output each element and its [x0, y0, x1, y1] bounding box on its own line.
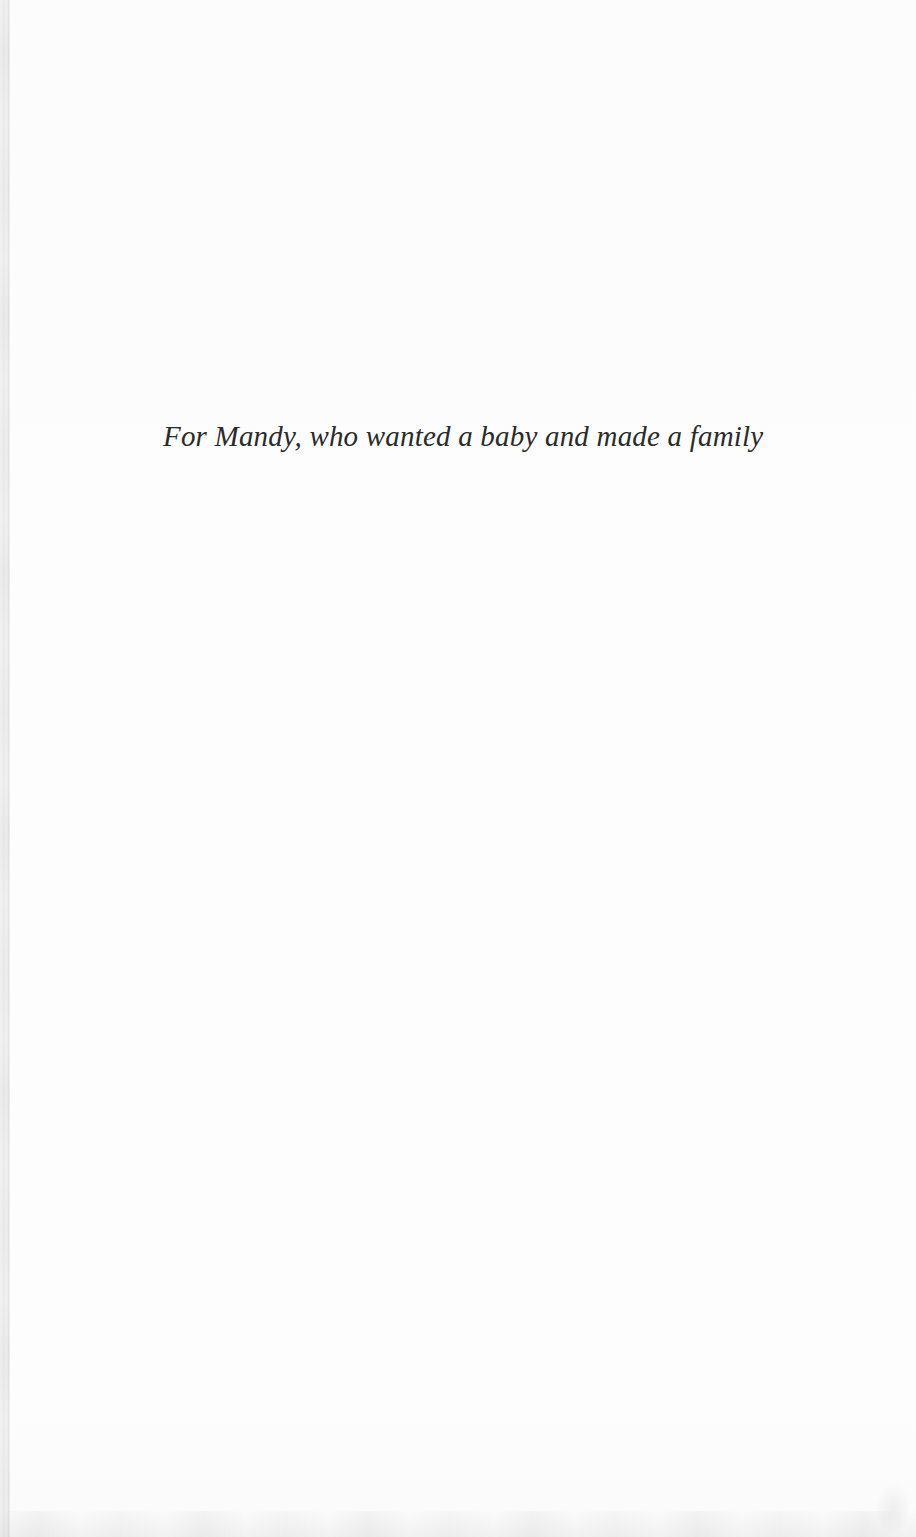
page-bottom-scan-edge [0, 1511, 916, 1537]
dedication-text: For Mandy, who wanted a baby and made a … [163, 420, 763, 453]
page-left-scan-edge [0, 0, 10, 1537]
page-corner-smudge [876, 1485, 910, 1533]
book-page: For Mandy, who wanted a baby and made a … [0, 0, 916, 1537]
